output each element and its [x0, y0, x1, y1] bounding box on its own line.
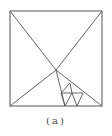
diagram-line — [56, 11, 102, 70]
diagram-line — [77, 93, 83, 106]
diagram-line — [72, 93, 77, 106]
diagram-line — [70, 83, 72, 93]
diagram-line — [61, 83, 70, 93]
square-outline — [10, 11, 102, 106]
diagram-line — [65, 93, 72, 106]
diagram-line — [10, 11, 56, 70]
diagram-lines — [10, 11, 102, 106]
diagram-line — [10, 70, 56, 106]
figure-caption: (a) — [0, 115, 112, 126]
diagram-line — [61, 93, 65, 106]
